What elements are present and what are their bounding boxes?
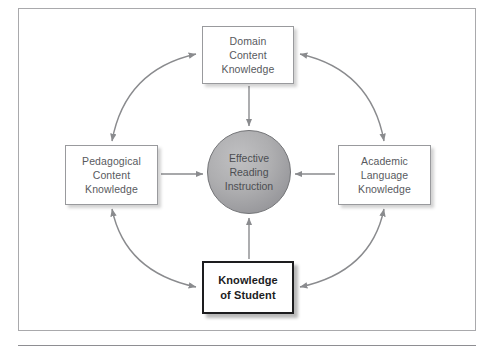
- node-knowledge-of-student-label: Knowledge of Student: [218, 273, 278, 303]
- node-pedagogical-content-knowledge: Pedagogical Content Knowledge: [65, 145, 158, 205]
- node-knowledge-of-student: Knowledge of Student: [202, 261, 294, 314]
- node-academic-language-knowledge: Academic Language Knowledge: [338, 145, 431, 205]
- node-academic-language-knowledge-label: Academic Language Knowledge: [358, 154, 411, 196]
- node-pedagogical-content-knowledge-label: Pedagogical Content Knowledge: [82, 154, 141, 196]
- node-domain-content-knowledge: Domain Content Knowledge: [202, 26, 294, 84]
- figure-bottom-rule: [18, 345, 476, 346]
- node-domain-content-knowledge-label: Domain Content Knowledge: [222, 34, 275, 76]
- figure-root: Effective Reading Instruction Domain Con…: [0, 0, 494, 350]
